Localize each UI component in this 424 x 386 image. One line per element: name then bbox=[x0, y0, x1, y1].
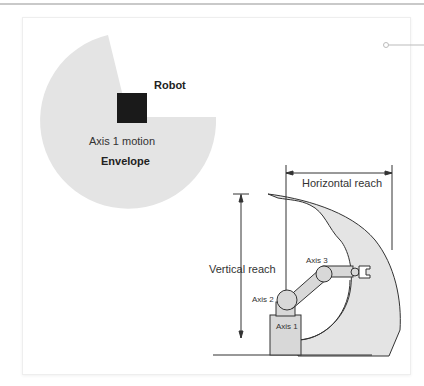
robot-envelope-diagram bbox=[0, 0, 424, 386]
axis1-motion-label: Axis 1 motion bbox=[89, 135, 155, 147]
axis3-label: Axis 3 bbox=[306, 256, 328, 265]
callout-marker bbox=[384, 43, 424, 48]
axis2-label: Axis 2 bbox=[252, 295, 274, 304]
vertical-reach-label: Vertical reach bbox=[209, 263, 276, 275]
robot-label: Robot bbox=[154, 79, 186, 91]
robot-block bbox=[117, 93, 147, 123]
envelope-label: Envelope bbox=[101, 155, 150, 167]
axis1-label: Axis 1 bbox=[276, 322, 298, 331]
axis2-joint bbox=[277, 290, 297, 310]
horizontal-reach-label: Horizontal reach bbox=[302, 177, 382, 189]
axis3-joint bbox=[316, 266, 332, 282]
wrist-joint bbox=[351, 268, 359, 276]
axis1-base bbox=[270, 315, 301, 355]
